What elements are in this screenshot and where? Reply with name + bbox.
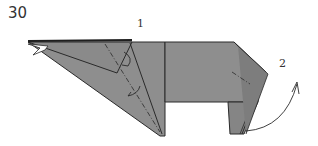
origami-diagram [0, 0, 318, 146]
